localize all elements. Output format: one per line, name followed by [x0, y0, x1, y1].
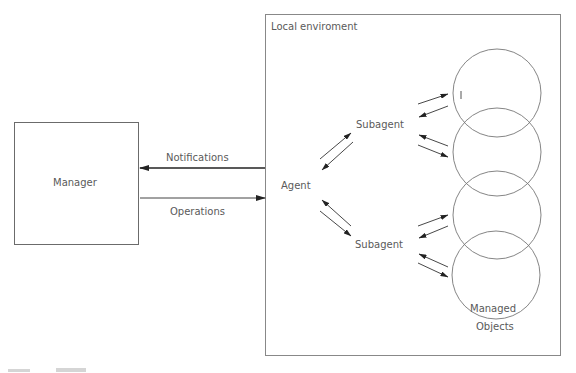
managed-object-circle-3 [453, 171, 541, 259]
subagent-bottom-label: Subagent [355, 239, 403, 250]
managed-objects-circles [452, 49, 541, 319]
managed-objects-label-line1: Managed [470, 303, 516, 314]
agent-subagent-bottom-arrows [320, 200, 351, 236]
agent-subagent-top-arrows [320, 133, 353, 170]
notifications-label: Notifications [166, 152, 229, 163]
managed-object-circle-2 [453, 108, 541, 196]
caption-fragment [8, 368, 86, 372]
managed-objects-label-line2: Objects [476, 321, 514, 332]
subagent-bottom-object-arrows [418, 215, 448, 277]
managed-object-circle-1 [453, 49, 541, 137]
agent-label: Agent [281, 180, 311, 191]
operations-label: Operations [170, 206, 225, 217]
subagent-top-object-arrows [418, 94, 448, 157]
subagent-top-label: Subagent [356, 119, 404, 130]
